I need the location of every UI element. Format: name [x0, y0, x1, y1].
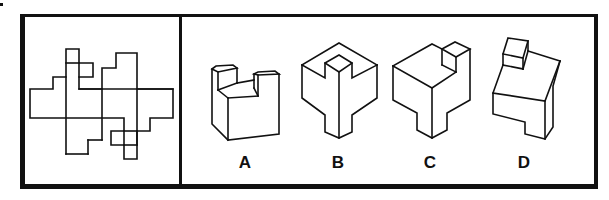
option-c-figure[interactable] — [393, 42, 470, 138]
option-b-label: B — [328, 153, 348, 173]
option-d-label: D — [514, 153, 534, 173]
option-b-figure[interactable] — [302, 43, 377, 138]
puzzle-figure: A B C D — [0, 0, 609, 200]
option-a-figure[interactable] — [212, 65, 279, 140]
option-c-label: C — [420, 153, 440, 173]
net-diagram — [30, 49, 173, 159]
option-a-label: A — [235, 153, 255, 173]
option-d-figure[interactable] — [493, 38, 560, 139]
